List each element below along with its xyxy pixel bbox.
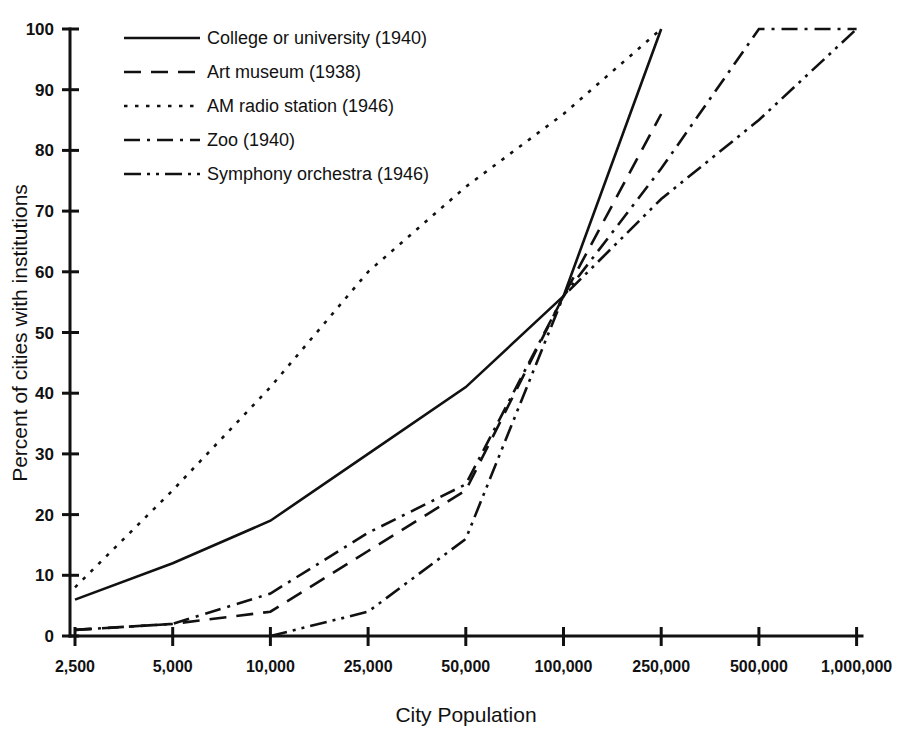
legend-label-3: Zoo (1940) [207,130,295,150]
y-tick-label: 90 [35,81,54,100]
legend-label-1: Art museum (1938) [207,62,361,82]
x-tick-label: 50,000 [441,658,490,675]
x-tick-label: 100,000 [535,658,593,675]
y-axis-title: Percent of cities with institutions [8,184,31,482]
x-tick-label: 25,000 [344,658,393,675]
y-tick-label: 40 [35,384,54,403]
series-line-3 [75,29,857,630]
x-tick-label: 5,000 [153,658,193,675]
y-tick-label: 60 [35,263,54,282]
data-series-group [75,29,857,636]
x-tick-label: 250,000 [632,658,690,675]
y-tick-label: 100 [26,20,54,39]
x-axis-title: City Population [395,703,536,726]
x-tick-label: 500,000 [730,658,788,675]
y-tick-label: 30 [35,445,54,464]
x-tick-label: 10,000 [246,658,295,675]
legend-label-4: Symphony orchestra (1946) [207,164,429,184]
y-tick-label: 20 [35,506,54,525]
y-tick-label: 70 [35,202,54,221]
series-line-1 [75,114,661,630]
legend-label-0: College or university (1940) [207,28,427,48]
x-axis-tick-labels: 2,5005,00010,00025,00050,000100,000250,0… [55,658,892,675]
chart-figure: 0102030405060708090100 2,5005,00010,0002… [0,0,908,750]
y-tick-label: 50 [35,324,54,343]
x-tick-label: 1,000,000 [821,658,892,675]
axes-group [70,29,862,636]
legend-label-2: AM radio station (1946) [207,96,394,116]
y-tick-label: 10 [35,566,54,585]
x-tick-label: 2,500 [55,658,95,675]
y-tick-label: 80 [35,141,54,160]
series-line-4 [270,29,856,636]
chart-legend: College or university (1940)Art museum (… [124,28,429,184]
y-tick-label: 0 [45,627,54,646]
line-chart-canvas: 0102030405060708090100 2,5005,00010,0002… [0,0,908,750]
